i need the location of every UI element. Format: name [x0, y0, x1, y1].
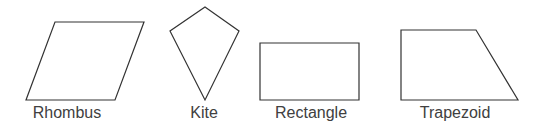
rhombus-shape	[26, 22, 144, 100]
rectangle-label: Rectangle	[275, 104, 347, 122]
trapezoid-shape	[401, 30, 518, 100]
rectangle-shape	[260, 43, 359, 100]
rhombus-label: Rhombus	[33, 104, 101, 122]
shapes-diagram: Rhombus Kite Rectangle Trapezoid	[0, 0, 544, 135]
kite-label: Kite	[190, 104, 218, 122]
kite-shape	[170, 7, 239, 100]
trapezoid-label: Trapezoid	[420, 104, 491, 122]
